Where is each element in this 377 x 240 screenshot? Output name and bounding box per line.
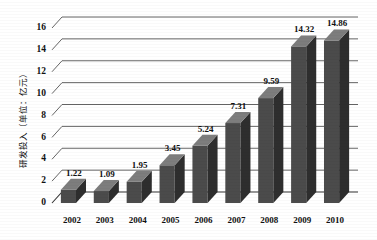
bar [160, 154, 185, 203]
bar-value-label: 7.31 [231, 101, 247, 111]
y-axis-tick-label: 12 [37, 66, 47, 76]
chart-background [0, 0, 377, 240]
x-axis-category-label: 2008 [260, 215, 279, 225]
y-axis-tick-label: 8 [41, 110, 46, 120]
x-axis-category-label: 2006 [195, 215, 214, 225]
x-axis-categories-group: 200220032004200520062007200820092010 [63, 215, 345, 225]
bar [225, 112, 250, 203]
y-axis-tick-label: 14 [37, 44, 47, 54]
x-axis-category-label: 2005 [162, 215, 181, 225]
bar [324, 29, 349, 203]
bar-value-label: 1.95 [132, 160, 148, 170]
y-axis-label: 研发投入（单位：亿元） [18, 69, 28, 168]
x-axis-category-label: 2010 [326, 215, 345, 225]
y-axis-tick-label: 2 [41, 175, 46, 185]
bar-value-label: 5.24 [198, 124, 214, 134]
y-axis-tick-label: 0 [41, 197, 46, 207]
bar-value-label: 14.32 [294, 24, 315, 34]
x-axis-category-label: 2007 [227, 215, 246, 225]
bar [192, 135, 217, 203]
bar-value-label: 14.86 [327, 18, 348, 28]
y-axis-tick-label: 16 [37, 22, 47, 32]
y-axis-tick-label: 6 [41, 132, 46, 142]
y-axis-label-group: 研发投入（单位：亿元） [18, 69, 28, 168]
x-axis-category-label: 2002 [63, 215, 82, 225]
x-axis-category-label: 2004 [129, 215, 148, 225]
x-axis-category-label: 2009 [293, 215, 312, 225]
y-axis-tick-label: 4 [41, 153, 46, 163]
chart-canvas: 0246810121416 1.221.091.953.455.247.319.… [0, 0, 377, 240]
x-axis-category-label: 2003 [96, 215, 115, 225]
bar-value-label: 1.22 [66, 168, 82, 178]
bar-value-label: 9.59 [263, 76, 279, 86]
bar [258, 87, 283, 203]
y-axis-tick-label: 10 [37, 88, 47, 98]
bar-chart: 0246810121416 1.221.091.953.455.247.319.… [0, 0, 377, 240]
bar [291, 35, 316, 203]
bar-value-label: 3.45 [165, 143, 181, 153]
bar-value-label: 1.09 [99, 169, 115, 179]
